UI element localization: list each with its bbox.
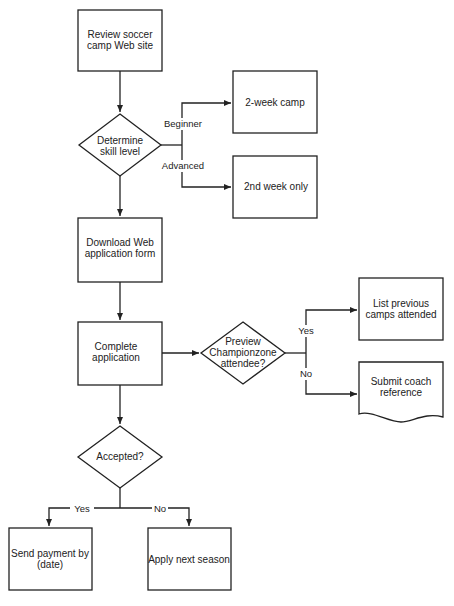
flowchart-canvas: Beginner Advanced Yes No Yes No Review s…: [0, 0, 454, 606]
label-beginner: Beginner: [164, 118, 202, 129]
text-skill-1: Determine: [97, 135, 144, 146]
text-download-2: application form: [85, 248, 156, 259]
text-payment-2: (date): [37, 559, 63, 570]
label-accepted-yes: Yes: [74, 503, 90, 514]
label-preview-yes: Yes: [298, 325, 314, 336]
text-payment-1: Send payment by: [11, 548, 89, 559]
label-advanced: Advanced: [162, 160, 204, 171]
label-preview-no: No: [300, 368, 312, 379]
text-two-week: 2-week camp: [245, 97, 305, 108]
text-skill-2: skill level: [100, 146, 140, 157]
label-accepted-no: No: [154, 503, 166, 514]
text-next-season: Apply next season: [148, 554, 230, 565]
text-complete-2: application: [92, 352, 140, 363]
text-coach-ref-2: reference: [380, 387, 423, 398]
text-review-1: Review soccer: [87, 29, 153, 40]
text-preview-2: Championzone: [209, 347, 277, 358]
text-accepted: Accepted?: [96, 451, 144, 462]
text-list-prev-2: camps attended: [365, 309, 436, 320]
text-download-1: Download Web: [86, 237, 154, 248]
text-preview-3: attendee?: [221, 358, 266, 369]
text-preview-1: Preview: [225, 336, 261, 347]
text-complete-1: Complete: [95, 341, 138, 352]
text-list-prev-1: List previous: [373, 298, 429, 309]
text-coach-ref-1: Submit coach: [371, 376, 432, 387]
text-second-week: 2nd week only: [244, 181, 308, 192]
text-review-2: camp Web site: [87, 40, 153, 51]
